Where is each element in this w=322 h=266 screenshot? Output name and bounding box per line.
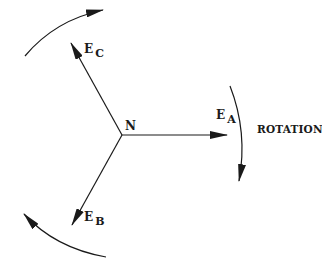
phasor-eb-label: EB xyxy=(84,211,104,223)
phasor-ea-name: E xyxy=(216,108,225,122)
phasor-ec-label: EC xyxy=(84,43,104,55)
neutral-label: N xyxy=(125,120,136,132)
rotation-arc-right xyxy=(230,86,242,181)
neutral-label-text: N xyxy=(125,119,136,133)
phasor-ea-label: EA xyxy=(216,109,236,121)
rotation-label: ROTATION xyxy=(257,124,322,135)
phasor-eb-subscript: B xyxy=(95,215,104,228)
phasor-ea-subscript: A xyxy=(227,113,236,126)
phasor-ec-name: E xyxy=(84,42,93,56)
phasor-ec-subscript: C xyxy=(95,47,104,60)
phasor-eb-name: E xyxy=(84,210,93,224)
phasor-diagram: N EC EA EB ROTATION xyxy=(0,0,322,266)
rotation-label-text: ROTATION xyxy=(257,123,322,135)
